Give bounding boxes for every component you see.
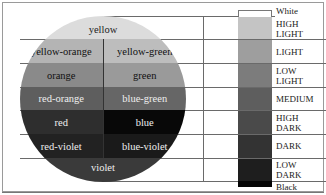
label-light: LIGHT [276, 47, 303, 57]
color-cell: green [104, 63, 187, 87]
color-cell: red [20, 110, 104, 134]
label-dark: DARK [276, 141, 302, 151]
label-high-dark: HIGH DARK [276, 113, 306, 133]
color-cell: blue-green [104, 87, 187, 110]
swatch-high-light [238, 17, 272, 39]
color-cell: yellow-green [104, 39, 187, 63]
label-high-light: HIGH LIGHT [276, 19, 306, 39]
swatch-low-dark [238, 159, 272, 181]
grid-line [203, 16, 204, 181]
swatch-light [238, 40, 272, 63]
label-low-dark: LOW DARK [276, 160, 306, 180]
label-medium: MEDIUM [276, 94, 314, 104]
swatch-medium [238, 88, 272, 110]
color-cell: orange [20, 63, 104, 87]
band-yellow-orange-green: yellow-orange yellow-green [20, 39, 186, 63]
color-cell: yellow [20, 16, 186, 39]
color-cell: red-violet [20, 134, 104, 158]
color-cell: blue-violet [104, 134, 187, 158]
band-red-orange-blue-green: red-orange blue-green [20, 87, 186, 110]
band-yellow: yellow [20, 16, 186, 39]
color-wheel: yellow yellow-orange yellow-green orange… [20, 16, 186, 182]
color-cell: yellow-orange [20, 39, 104, 63]
band-orange-green: orange green [20, 63, 186, 87]
color-cell: blue [104, 110, 187, 134]
label-black: Black [276, 182, 297, 192]
swatch-high-dark [238, 111, 272, 134]
label-white: White [276, 6, 298, 16]
color-cell: red-orange [20, 87, 104, 110]
swatch-dark [238, 135, 272, 158]
swatch-black [238, 181, 272, 187]
band-violet: violet [20, 158, 186, 182]
swatch-low-light [238, 64, 272, 87]
band-red-blue: red blue [20, 110, 186, 134]
label-low-light: LOW LIGHT [276, 66, 306, 86]
bottom-rule [2, 192, 324, 193]
color-cell: violet [20, 158, 186, 182]
band-red-violet-blue-violet: red-violet blue-violet [20, 134, 186, 158]
